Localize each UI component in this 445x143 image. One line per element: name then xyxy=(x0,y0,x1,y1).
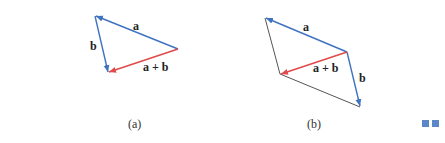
diagram-canvas: a b a + b (a) a b a + b (b) xyxy=(0,0,445,143)
blue-square-icon xyxy=(422,120,429,127)
panel-a: a b a + b (a) xyxy=(90,16,178,131)
construction-left-edge xyxy=(265,18,280,74)
construction-bottom-edge xyxy=(280,74,360,107)
label-b: b xyxy=(359,71,366,85)
label-a: a xyxy=(303,20,309,34)
vector-addition-figure: a b a + b (a) a b a + b (b) xyxy=(0,0,445,143)
panel-b: a b a + b (b) xyxy=(265,18,366,131)
vector-b-arrow xyxy=(95,16,108,72)
caption-b: (b) xyxy=(307,117,321,131)
label-sum: a + b xyxy=(313,61,339,75)
label-sum: a + b xyxy=(143,60,169,74)
caption-a: (a) xyxy=(128,117,141,131)
blue-square-icon xyxy=(432,120,439,127)
label-a: a xyxy=(133,19,139,33)
label-b: b xyxy=(90,39,97,53)
